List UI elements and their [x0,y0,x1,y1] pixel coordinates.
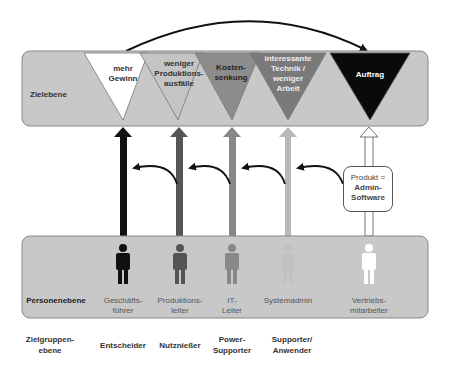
goal-text-weniger-ausfaelle: wenigerProduktions-ausfälle [148,59,210,89]
person-label-it-leiter: IT-Leiter [212,296,252,316]
group-label-entscheider: Entscheider [90,340,156,351]
personenebene-label: Personenebene [22,296,90,306]
goal-text-kostensenkung: Kosten-senkung [203,63,259,83]
influence-arrow-2 [190,166,230,184]
arrow-sa [279,127,297,236]
person-label-produktionsleiter: Produktions-leiter [150,296,210,316]
zielgruppenebene-label: Zielgruppen-ebene [20,334,80,356]
goal-text-auftrag: Auftrag [344,70,396,80]
influence-arrow-4 [298,166,343,184]
group-label-supporter-anwender: Supporter/Anwender [262,334,322,356]
goal-text-mehr-gewinn: mehrGewinn [96,64,150,84]
person-label-vertriebsmitarbeiter: Vertriebs-mitarbeiter [338,296,400,316]
person-label-geschaeftsfuehrer: Geschäfts-führer [95,296,151,316]
person-label-systemadmin: Systemadmin [256,296,320,306]
arrow-pl [170,127,188,236]
arrow-it [223,127,241,236]
group-label-nutzniesser: Nutznießer [150,340,210,351]
arc-arrow-top [126,21,366,51]
group-label-power-supporter: Power-Supporter [204,334,260,356]
zielebene-label: Zielebene [30,90,90,100]
arrow-gf [114,127,132,236]
goal-text-interessante-technik: interessanteTechnik /wenigerArbeit [256,54,320,94]
influence-arrow-3 [243,166,285,184]
influence-arrow-1 [134,166,177,184]
product-box: Produkt = Admin- Software [343,166,393,212]
